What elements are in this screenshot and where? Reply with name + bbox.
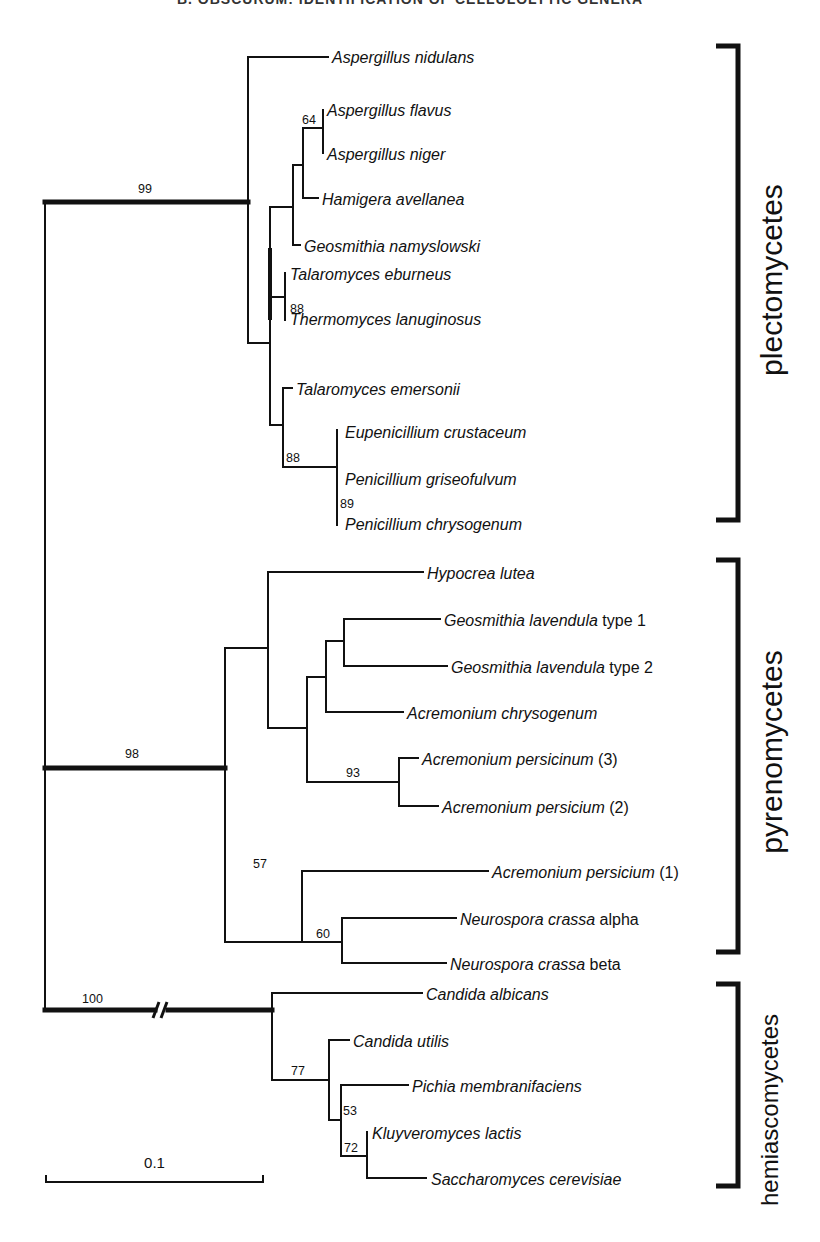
bootstrap-value: 98: [125, 747, 139, 761]
bootstrap-value: 57: [253, 857, 267, 871]
bootstrap-value: 99: [138, 182, 152, 196]
taxon-label: Hypocrea lutea: [427, 565, 535, 582]
clade-bracket: [716, 46, 738, 520]
taxon-label: Candida albicans: [426, 986, 549, 1003]
taxon-label: Candida utilis: [353, 1033, 449, 1050]
phylogenetic-tree: Aspergillus nidulansAspergillus flavusAs…: [0, 0, 820, 1242]
taxon-label: Acremonium persicinum (3): [421, 751, 618, 768]
bootstrap-value: 64: [302, 113, 316, 127]
taxon-label: Talaromyces emersonii: [296, 381, 460, 398]
taxon-label: Pichia membranifaciens: [412, 1078, 582, 1095]
clade-label-hemiascomycetes: hemiascomycetes: [756, 1014, 783, 1206]
taxon-label: Talaromyces eburneus: [290, 266, 451, 283]
bootstrap-value: 72: [344, 1141, 358, 1155]
taxon-label: Acremonium persicium (2): [441, 799, 629, 816]
clade-bracket: [716, 984, 738, 1186]
clade-label-plectomycetes: plectomycetes: [755, 184, 788, 376]
clade-bracket: [716, 560, 738, 952]
clade-label-pyrenomycetes: pyrenomycetes: [755, 650, 788, 853]
taxon-label: Aspergillus niger: [326, 146, 446, 163]
bootstrap-value: 60: [316, 927, 330, 941]
taxon-label: Acremonium persicium (1): [491, 864, 679, 881]
taxon-label: Saccharomyces cerevisiae: [431, 1171, 621, 1188]
taxon-label: Geosmithia lavendula type 2: [451, 659, 653, 676]
taxon-label: Thermomyces lanuginosus: [290, 311, 481, 328]
branch-break-mark: [153, 1002, 167, 1018]
bootstrap-value: 89: [340, 497, 354, 511]
taxon-label: Eupenicillium crustaceum: [345, 424, 526, 441]
taxon-label: Geosmithia lavendula type 1: [444, 612, 646, 629]
taxon-label: Kluyveromyces lactis: [372, 1125, 521, 1142]
scale-bar-line: [46, 1175, 263, 1182]
taxon-label: Acremonium chrysogenum: [406, 705, 597, 722]
bootstrap-value: 93: [346, 766, 360, 780]
bootstrap-value: 88: [286, 451, 300, 465]
scale-bar-label: 0.1: [144, 1154, 165, 1171]
bootstrap-value: 53: [343, 1104, 357, 1118]
taxon-label: Neurospora crassa beta: [450, 956, 621, 973]
tree-branches: [45, 57, 488, 1178]
taxon-label: Hamigera avellanea: [322, 191, 464, 208]
taxon-label: Penicillium chrysogenum: [345, 516, 522, 533]
bootstrap-value: 77: [291, 1064, 305, 1078]
clade-brackets: plectomycetespyrenomyceteshemiascomycete…: [716, 46, 788, 1206]
taxon-label: Neurospora crassa alpha: [460, 911, 639, 928]
taxon-label: Aspergillus flavus: [326, 102, 452, 119]
bootstrap-value: 100: [82, 992, 103, 1006]
taxon-label: Aspergillus nidulans: [331, 49, 474, 66]
scale-bar: 0.1: [46, 1154, 263, 1182]
taxon-label: Penicillium griseofulvum: [345, 471, 517, 488]
taxon-label: Geosmithia namyslowski: [304, 238, 481, 255]
bootstrap-value: 88: [290, 302, 304, 316]
